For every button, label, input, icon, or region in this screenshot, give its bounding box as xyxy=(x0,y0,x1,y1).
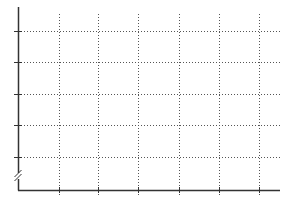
gridlines xyxy=(18,14,280,196)
chart-canvas xyxy=(0,0,290,205)
axis-break-gap xyxy=(16,173,22,179)
axis-ticks xyxy=(14,32,260,194)
